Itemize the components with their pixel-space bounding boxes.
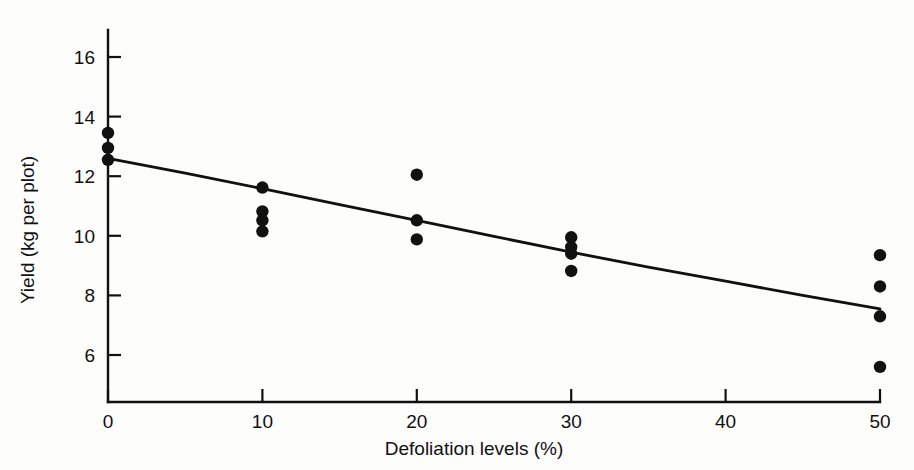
y-tick-label: 8 (84, 285, 95, 306)
y-tick-label: 14 (74, 107, 96, 128)
data-point (256, 214, 268, 226)
x-tick-label: 10 (252, 411, 273, 432)
data-point (874, 249, 886, 261)
x-tick-label: 30 (561, 411, 582, 432)
y-tick-label: 10 (74, 226, 95, 247)
x-axis-title: Defoliation levels (%) (385, 438, 563, 459)
chart-container: 6810121416 01020304050 Defoliation level… (0, 0, 914, 470)
data-point (256, 225, 268, 237)
x-axis-ticks: 01020304050 (103, 389, 891, 432)
data-point (256, 181, 268, 193)
y-axis-ticks: 6810121416 (74, 47, 121, 366)
data-point (102, 127, 114, 139)
data-points (102, 127, 886, 373)
scatter-plot: 6810121416 01020304050 Defoliation level… (0, 0, 914, 470)
y-tick-label: 6 (84, 345, 95, 366)
x-tick-label: 0 (103, 411, 114, 432)
y-tick-label: 12 (74, 166, 95, 187)
axes (108, 30, 880, 402)
data-point (102, 154, 114, 166)
y-tick-label: 16 (74, 47, 95, 68)
data-point (874, 361, 886, 373)
data-point (411, 169, 423, 181)
data-point (874, 280, 886, 292)
data-point (102, 142, 114, 154)
data-point (565, 265, 577, 277)
x-tick-label: 20 (406, 411, 427, 432)
fitted-regression-curve (108, 158, 880, 308)
x-tick-label: 50 (869, 411, 890, 432)
data-point (565, 247, 577, 259)
y-axis-title: Yield (kg per plot) (17, 156, 38, 304)
x-tick-label: 40 (715, 411, 736, 432)
data-point (874, 310, 886, 322)
data-point (411, 214, 423, 226)
data-point (411, 233, 423, 245)
